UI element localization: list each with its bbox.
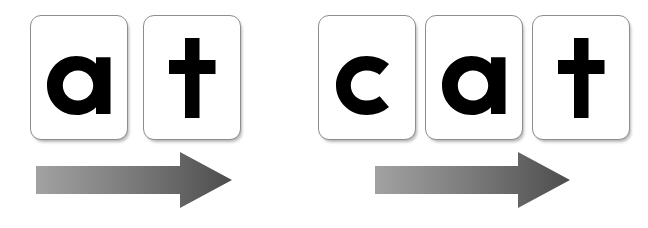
card-row-at: a t bbox=[30, 15, 241, 140]
letter-c-glyph bbox=[331, 30, 403, 126]
letter-a-glyph bbox=[438, 30, 510, 126]
blend-arrow-right bbox=[370, 148, 573, 212]
letter-card-canvas: a t bbox=[0, 0, 648, 228]
word-group-at: a t bbox=[0, 0, 300, 228]
letter-card-t[interactable]: t bbox=[532, 15, 630, 140]
letter-card-a[interactable]: a bbox=[30, 15, 128, 140]
letter-card-t[interactable]: t bbox=[143, 15, 241, 140]
letter-card-c[interactable]: c bbox=[318, 15, 416, 140]
word-group-cat: c a t bbox=[300, 0, 648, 228]
letter-card-a[interactable]: a bbox=[425, 15, 523, 140]
letter-t-glyph bbox=[545, 30, 617, 126]
letter-t-glyph bbox=[156, 30, 228, 126]
card-row-cat: c a t bbox=[318, 15, 630, 140]
blend-arrow-right bbox=[30, 148, 235, 212]
letter-a-glyph bbox=[43, 30, 115, 126]
